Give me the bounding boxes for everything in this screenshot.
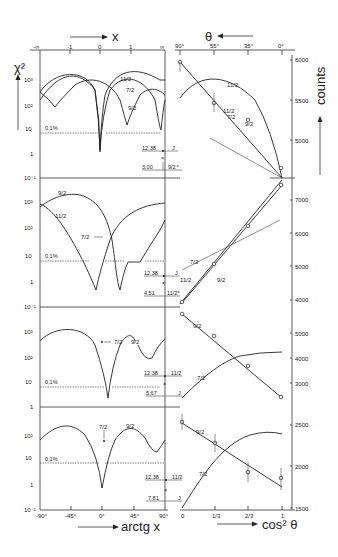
svg-text:10³: 10³ bbox=[24, 77, 33, 83]
svg-text:7/2: 7/2 bbox=[114, 339, 123, 345]
svg-text:4000: 4000 bbox=[295, 297, 309, 303]
svg-text:6000: 6000 bbox=[295, 231, 309, 237]
svg-text:7/2: 7/2 bbox=[81, 234, 90, 240]
svg-text:90°: 90° bbox=[175, 43, 185, 49]
counts-y-label: counts bbox=[313, 66, 328, 175]
svg-text:7.81: 7.81 bbox=[148, 495, 159, 501]
svg-text:0: 0 bbox=[181, 513, 185, 519]
svg-text:2/3: 2/3 bbox=[245, 513, 254, 519]
svg-text:5.67: 5.67 bbox=[146, 390, 157, 396]
svg-text:12.38: 12.38 bbox=[145, 474, 159, 480]
svg-text:3000: 3000 bbox=[295, 381, 309, 387]
svg-text:1500: 1500 bbox=[295, 506, 309, 512]
svg-text:11/2: 11/2 bbox=[55, 213, 67, 219]
svg-text:90°: 90° bbox=[159, 513, 169, 519]
figure: x -∞ -1 0 1 ∞ θ 90° 55° 35° 0° χ² counts bbox=[0, 0, 338, 557]
svg-text:10²: 10² bbox=[24, 355, 33, 361]
svg-text:0: 0 bbox=[98, 44, 102, 50]
svg-text:10³: 10³ bbox=[24, 199, 33, 205]
svg-text:9/2: 9/2 bbox=[126, 423, 135, 429]
svg-text:12.38: 12.38 bbox=[142, 145, 156, 151]
svg-text:1/3: 1/3 bbox=[212, 513, 221, 519]
svg-text:9/2: 9/2 bbox=[128, 105, 137, 111]
panel-2-right-y-ticks: 7000 6000 5000 4000 bbox=[290, 197, 309, 303]
svg-text:2500: 2500 bbox=[295, 422, 309, 428]
svg-text:10⁻¹: 10⁻¹ bbox=[24, 507, 36, 513]
svg-text:0°: 0° bbox=[278, 43, 284, 49]
svg-text:10⁻¹: 10⁻¹ bbox=[24, 175, 36, 181]
svg-text:0°: 0° bbox=[99, 513, 105, 519]
svg-text:∞: ∞ bbox=[160, 44, 164, 50]
svg-text:7000: 7000 bbox=[295, 197, 309, 203]
cos2-theta-label: cos² θ bbox=[262, 517, 297, 532]
svg-text:9/2: 9/2 bbox=[58, 190, 67, 196]
svg-text:2000: 2000 bbox=[295, 464, 309, 470]
threshold-label: 0,1% bbox=[45, 379, 58, 385]
svg-text:5000: 5000 bbox=[295, 138, 309, 144]
svg-text:-45°: -45° bbox=[65, 513, 77, 519]
panel-3: 10³ 10² 10 1 7/2 9/2 0,1% 12.38 11/2 × 5… bbox=[24, 312, 309, 410]
svg-text:1: 1 bbox=[129, 44, 133, 50]
chi2-y-label: χ² bbox=[14, 60, 26, 130]
threshold-label: 0,1% bbox=[45, 253, 58, 259]
panel-4-right-y-ticks: 2500 2000 1500 bbox=[290, 422, 309, 512]
svg-text:11/2: 11/2 bbox=[120, 76, 132, 82]
svg-text:J: J bbox=[178, 495, 181, 501]
svg-text:55°: 55° bbox=[210, 43, 220, 49]
top-theta-axis: θ 90° 55° 35° 0° bbox=[175, 29, 295, 55]
svg-text:10: 10 bbox=[25, 379, 32, 385]
svg-text:9/2: 9/2 bbox=[217, 277, 226, 283]
svg-text:×: × bbox=[161, 155, 164, 161]
svg-text:10⁻¹: 10⁻¹ bbox=[24, 304, 36, 310]
svg-text:35°: 35° bbox=[244, 43, 254, 49]
svg-text:×: × bbox=[164, 487, 167, 493]
svg-text:7/2: 7/2 bbox=[190, 259, 199, 265]
svg-text:7/2: 7/2 bbox=[227, 114, 236, 120]
svg-text:11/2⁺: 11/2⁺ bbox=[167, 290, 180, 296]
svg-text:12.38: 12.38 bbox=[144, 270, 158, 276]
svg-text:9/2⁺: 9/2⁺ bbox=[168, 164, 179, 170]
svg-text:7/2: 7/2 bbox=[126, 87, 135, 93]
svg-text:×: × bbox=[162, 280, 165, 286]
svg-text:9/2: 9/2 bbox=[193, 323, 202, 329]
svg-text:1: 1 bbox=[30, 279, 34, 285]
svg-text:12.38: 12.38 bbox=[144, 370, 158, 376]
panel-3-spin-box: 12.38 11/2 × 5.67 J bbox=[144, 370, 182, 396]
svg-text:1: 1 bbox=[30, 482, 34, 488]
panel-2-spin-box: 12.38 J × 4.51 11/2⁺ bbox=[144, 270, 180, 296]
panel-1: 10³ 10² 10 1 10⁻¹ 11/2 7/2 9/2 0,1% 12.3… bbox=[24, 57, 309, 181]
svg-text:5000: 5000 bbox=[295, 331, 309, 337]
svg-text:10: 10 bbox=[25, 253, 32, 259]
svg-text:10³: 10³ bbox=[24, 329, 33, 335]
panel-2: 10³ 10² 10 1 10⁻¹ 9/2 11/2 7/2 0,1% 12.3… bbox=[24, 180, 309, 310]
svg-text:11/2: 11/2 bbox=[172, 474, 182, 480]
arctg-x-label: arctg x bbox=[121, 519, 161, 534]
svg-text:-1: -1 bbox=[67, 44, 73, 50]
svg-text:9/2: 9/2 bbox=[131, 339, 140, 345]
svg-text:7/2: 7/2 bbox=[199, 471, 208, 477]
threshold-label: 0,1% bbox=[45, 456, 58, 462]
svg-text:9/2: 9/2 bbox=[196, 429, 205, 435]
svg-text:4000: 4000 bbox=[295, 356, 309, 362]
panel-4-spin-box: 12.38 11/2 × 7.81 J bbox=[145, 474, 182, 501]
svg-text:10: 10 bbox=[25, 126, 32, 132]
panel-1-spin-box: 12.38 J × 3.00 9/2⁺ bbox=[142, 145, 182, 170]
svg-text:7/2: 7/2 bbox=[99, 424, 108, 430]
svg-text:counts: counts bbox=[313, 66, 328, 105]
svg-text:J: J bbox=[178, 390, 181, 396]
threshold-label: 0,1% bbox=[45, 125, 58, 131]
svg-text:5000: 5000 bbox=[295, 264, 309, 270]
svg-text:4.51: 4.51 bbox=[144, 290, 155, 296]
panel-4-left-y-ticks: 10² 10 1 10⁻¹ bbox=[24, 433, 36, 513]
svg-text:5500: 5500 bbox=[295, 98, 309, 104]
svg-text:10: 10 bbox=[25, 455, 32, 461]
svg-text:-∞: -∞ bbox=[33, 44, 39, 50]
svg-text:χ²: χ² bbox=[14, 60, 26, 75]
svg-text:10²: 10² bbox=[24, 433, 33, 439]
panel-3-right-y-ticks: 5000 4000 3000 bbox=[290, 331, 309, 387]
top-x-axis: x -∞ -1 0 1 ∞ bbox=[30, 29, 165, 54]
svg-text:1: 1 bbox=[30, 151, 34, 157]
top-x-label: x bbox=[112, 29, 119, 44]
svg-text:3.00: 3.00 bbox=[142, 164, 153, 170]
svg-text:6000: 6000 bbox=[295, 57, 309, 63]
